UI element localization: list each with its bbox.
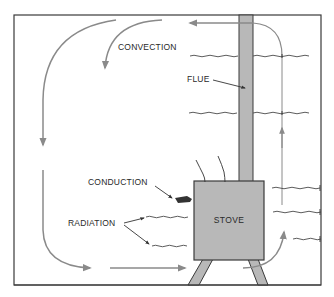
heat-transfer-diagram: STOVE CONVECTION FLUE CONDUCTION <box>0 0 334 297</box>
radiation-pointer-1 <box>124 218 144 223</box>
wave-line <box>272 187 320 189</box>
convection-label: CONVECTION <box>118 42 177 52</box>
wave-line <box>293 238 321 240</box>
flue-label: FLUE <box>187 74 210 84</box>
conduction-pointer <box>155 186 172 198</box>
convection-arc-large <box>43 20 116 145</box>
radiation-waves-left <box>146 216 188 247</box>
radiation-label: RADIATION <box>68 218 115 228</box>
wave-line <box>273 211 321 213</box>
heat-rise-line-1 <box>196 160 205 182</box>
heat-rise-line-2 <box>218 156 225 182</box>
wall-ticks <box>282 54 320 242</box>
wave-line <box>146 216 188 218</box>
wave-line <box>189 112 237 114</box>
hand-icon <box>175 196 192 203</box>
stove-label: STOVE <box>214 215 245 225</box>
wave-line <box>152 245 187 247</box>
wave-line <box>190 55 238 57</box>
wave-line <box>253 112 309 114</box>
conduction-label: CONDUCTION <box>88 177 148 187</box>
flue-pipe <box>239 15 253 182</box>
stove-leg-left <box>188 259 213 285</box>
radiation-pointer-2 <box>124 225 149 244</box>
convection-arc-right <box>253 23 282 56</box>
wave-line <box>253 55 309 57</box>
